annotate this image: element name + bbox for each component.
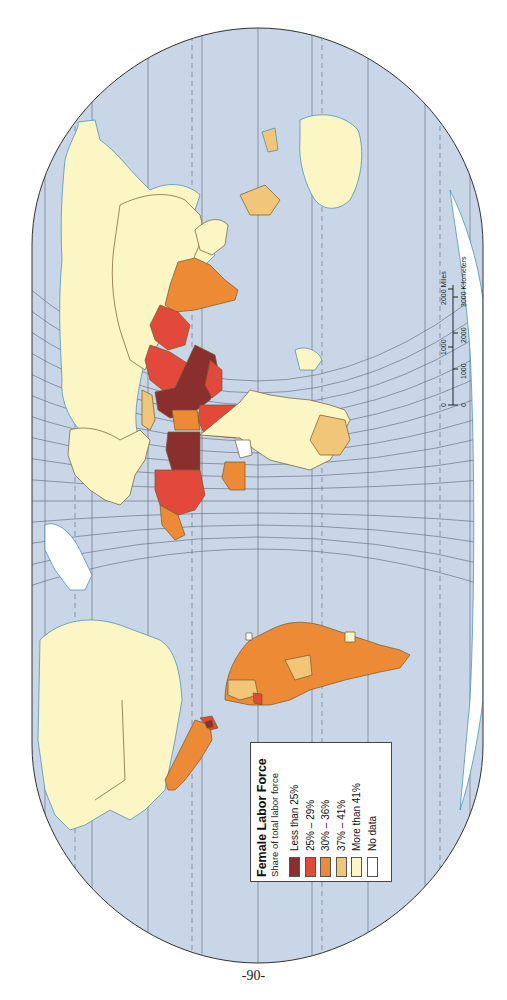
legend-item: Less than 25% — [287, 749, 303, 877]
legend-item: 37% – 41% — [334, 749, 350, 877]
legend-subtitle: Share of total labor force — [269, 749, 281, 877]
legend-label: More than 41% — [351, 783, 362, 851]
land-paraguay — [345, 632, 355, 642]
scale-km-3000: 3000 Kilometers — [460, 256, 467, 307]
legend-label: No data — [367, 816, 378, 851]
scale-miles-1000: 1000 — [440, 339, 447, 355]
scale-km-1000: 1000 — [460, 363, 467, 379]
legend-swatch — [351, 857, 362, 877]
legend: Female Labor Force Share of total labor … — [250, 742, 392, 882]
land-libya — [172, 410, 200, 430]
legend-swatch — [320, 857, 331, 877]
scale-km-0: 0 — [460, 403, 467, 407]
page-number: -90- — [0, 968, 507, 984]
legend-item: More than 41% — [349, 749, 365, 877]
legend-label: 37% – 41% — [336, 800, 347, 851]
scale-miles-2000: 2000 Miles — [440, 271, 447, 305]
scale-km-2000: 2000 — [460, 327, 467, 343]
legend-swatch — [367, 857, 378, 877]
land-guyana-nodata — [246, 633, 252, 640]
land-venezuela — [253, 693, 262, 705]
legend-item: No data — [365, 749, 381, 877]
legend-swatch — [289, 857, 300, 877]
scale-miles-0: 0 — [440, 403, 447, 407]
legend-item: 25% – 29% — [303, 749, 319, 877]
scale-bar: 0 1000 2000 Miles 0 1000 2000 3000 Kilom… — [418, 255, 478, 415]
legend-item: 30% – 36% — [318, 749, 334, 877]
legend-label: 30% – 36% — [320, 800, 331, 851]
legend-swatch — [336, 857, 347, 877]
legend-title: Female Labor Force — [255, 749, 269, 877]
land-egypt — [166, 432, 200, 470]
legend-label: Less than 25% — [289, 785, 300, 851]
legend-label: 25% – 29% — [305, 800, 316, 851]
legend-swatch — [305, 857, 316, 877]
